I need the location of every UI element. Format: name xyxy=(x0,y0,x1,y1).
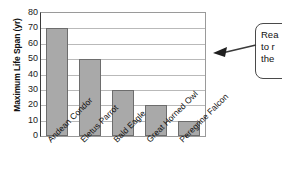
y-tick-label: 40 xyxy=(18,70,38,79)
y-tick-label: 10 xyxy=(18,116,38,125)
y-tick-label: 0 xyxy=(18,131,38,140)
y-tick-label: 70 xyxy=(18,23,38,32)
callout-arrow-icon xyxy=(210,42,258,62)
y-tick-label: 60 xyxy=(18,39,38,48)
callout-line-2: to r xyxy=(261,41,282,53)
y-tick-label: 80 xyxy=(18,8,38,17)
y-tick-label: 20 xyxy=(18,100,38,109)
callout-line-3: the xyxy=(261,53,282,65)
x-axis-tick-labels: Andean CondorEletus ParrotBald EagleGrea… xyxy=(40,138,206,193)
y-tick-label: 30 xyxy=(18,85,38,94)
callout-box: Rea to r the xyxy=(255,23,282,79)
y-axis-tick-labels: 80706050403020100 xyxy=(16,12,38,137)
y-tick-label: 50 xyxy=(18,54,38,63)
bar-chart-figure: p Maximum Life Span (yr) 807060504030201… xyxy=(0,0,282,193)
callout-line-1: Rea xyxy=(261,29,282,41)
